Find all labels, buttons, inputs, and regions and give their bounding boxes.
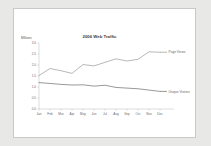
- series-line-2: [39, 83, 160, 92]
- y-axis-tick-label: 2.5: [32, 52, 37, 56]
- screenshot-root: 2006 Web TrafficMillions3.02.52.01.51.00…: [0, 0, 211, 146]
- x-axis-tick-label: Jan: [37, 112, 42, 116]
- legend-label-2: Unique Visitors: [169, 90, 191, 94]
- x-axis-tick-label: Sep: [124, 112, 130, 116]
- x-axis-tick-label: Apr: [70, 112, 75, 116]
- y-axis-tick-label: 2.0: [32, 63, 37, 67]
- y-axis-label: Millions: [21, 36, 32, 40]
- x-axis-tick-label: Aug: [113, 112, 119, 116]
- x-axis-tick-label: Feb: [47, 112, 53, 116]
- chart-panel: 2006 Web TrafficMillions3.02.52.01.51.00…: [13, 8, 196, 138]
- x-axis-tick-label: Dec: [157, 112, 163, 116]
- y-axis-tick-label: 0.5: [32, 96, 37, 100]
- line-chart: 2006 Web TrafficMillions3.02.52.01.51.00…: [14, 9, 197, 139]
- legend-label-1: Page Views: [169, 50, 186, 54]
- chart-title: 2006 Web Traffic: [83, 34, 117, 39]
- y-axis-tick-label: 1.5: [32, 74, 37, 78]
- chart-area: 2006 Web TrafficMillions3.02.52.01.51.00…: [14, 9, 197, 139]
- x-axis-tick-label: Jun: [92, 112, 97, 116]
- x-axis-tick-label: Nov: [146, 112, 152, 116]
- series-line-1: [39, 52, 160, 76]
- x-axis-tick-label: May: [80, 112, 86, 116]
- y-axis-tick-label: 0.0: [32, 107, 37, 111]
- x-axis-tick-label: Jul: [103, 112, 107, 116]
- x-axis-tick-label: Mar: [58, 112, 63, 116]
- y-axis-tick-label: 3.0: [32, 41, 37, 45]
- y-axis-tick-label: 1.0: [32, 85, 37, 89]
- x-axis-tick-label: Oct: [136, 112, 141, 116]
